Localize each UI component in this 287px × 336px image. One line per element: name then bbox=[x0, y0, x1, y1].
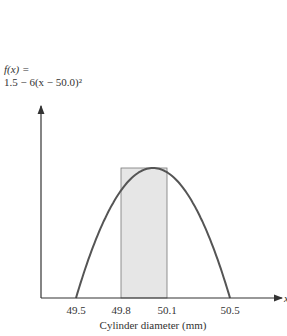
x-axis-label: Cylinder diameter (mm) bbox=[100, 319, 207, 331]
x-tick-50-1: 50.1 bbox=[157, 304, 176, 316]
x-tick-50-5: 50.5 bbox=[220, 304, 239, 316]
function-label-line2: 1.5 − 6(x − 50.0)² bbox=[4, 76, 82, 88]
chart-canvas bbox=[0, 0, 287, 336]
function-label-line1: f(x) = bbox=[4, 63, 29, 75]
x-tick-49-8: 49.8 bbox=[111, 304, 130, 316]
x-axis-symbol: x bbox=[284, 292, 287, 304]
shaded-region bbox=[121, 168, 167, 298]
x-tick-49-5: 49.5 bbox=[66, 304, 85, 316]
